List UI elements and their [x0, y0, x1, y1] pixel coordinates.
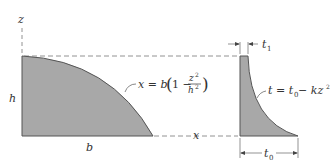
- left-equation-numerator-exp: 2: [195, 71, 199, 78]
- left-equation-denominator-exp: 2: [195, 83, 199, 90]
- height-label: h: [9, 92, 16, 105]
- left-equation-numerator: z: [188, 73, 194, 83]
- right-equation-rhs: − kz: [298, 84, 323, 97]
- right-equation-leader: [257, 91, 266, 98]
- width-label: b: [86, 141, 93, 154]
- left-equation-denominator: h: [188, 85, 194, 95]
- right-equation-lhs: t = t: [268, 84, 294, 97]
- x-axis-label: x: [193, 129, 200, 142]
- t1-label-sub: 1: [267, 45, 271, 53]
- left-profile-shape: [22, 56, 153, 136]
- t1-arrowhead-left: [235, 42, 240, 46]
- left-equation-leader: [125, 84, 136, 92]
- t1-arrowhead-right: [248, 42, 253, 46]
- left-equation-paren-close: ): [202, 74, 209, 94]
- left-equation-lhs: x = b: [138, 78, 167, 91]
- t0-label-sub: 0: [269, 154, 273, 162]
- t0-arrowhead-left: [240, 151, 245, 155]
- right-equation-rhs-exp: 2: [326, 83, 330, 90]
- diagram-canvas: z h b x x = b ( 1 − z 2 h 2 ) t = t 0 − …: [0, 0, 334, 168]
- z-axis-label: z: [17, 13, 24, 26]
- t0-arrowhead-right: [293, 151, 298, 155]
- diagram-svg: z h b x x = b ( 1 − z 2 h 2 ) t = t 0 − …: [0, 0, 334, 168]
